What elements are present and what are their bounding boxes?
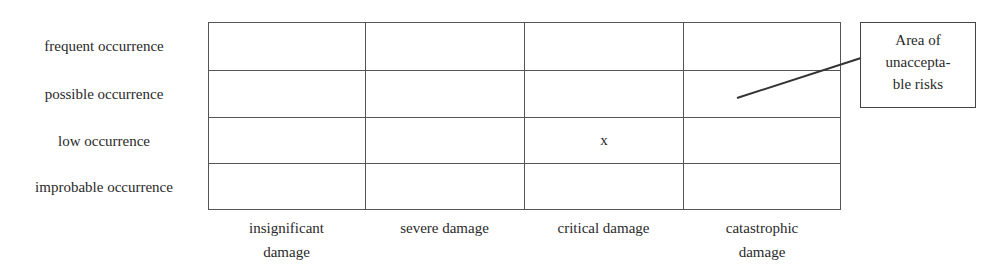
- callout-line: Area of: [861, 29, 975, 51]
- callout-leader-line: [0, 0, 1006, 280]
- unacceptable-risk-callout: Area of unaccepta- ble risks: [860, 22, 976, 108]
- callout-line: ble risks: [861, 73, 975, 95]
- callout-line: unaccepta-: [861, 51, 975, 73]
